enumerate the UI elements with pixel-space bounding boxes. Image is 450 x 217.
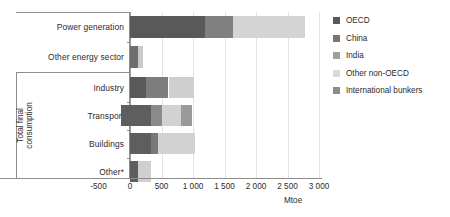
legend-swatch-other-non-oecd [333,70,340,77]
tickmark-0 [127,42,130,43]
bar-segment-other-non-oecd [162,105,181,126]
bar-segment-other-non-oecd [158,133,195,154]
legend-label-india: India [346,51,364,60]
xtick-label-1500: 1 500 [214,182,235,191]
category-label-power-generation: Power generation [0,12,130,42]
gridline-3000 [319,12,320,178]
frame-rule-middle [16,72,130,73]
xtick-label-3000: 3 000 [309,182,330,191]
tickmark-1 [127,72,130,73]
bar-segment-oecd [130,46,138,68]
xtick-label-2000: 2 000 [246,182,267,191]
legend-label-international-bunkers: International bunkers [346,86,422,95]
legend-label-china: China [346,34,367,43]
xtick-label-0: 0 [128,182,133,191]
x-axis-line [0,178,322,179]
bar-segment-other-non-oecd [233,16,306,38]
chart-root: Power generation Other energy sector Ind… [0,0,450,217]
bar-segment-china [146,77,169,98]
bar-segment-oecd [130,77,146,98]
plot-area [130,12,322,178]
bar-segment-china [151,133,158,154]
bar-segment-china [151,105,162,126]
bar-segment-oecd [130,105,151,126]
xtick-label-500: 500 [155,182,169,191]
legend-label-other-non-oecd: Other non-OECD [346,69,409,78]
bar-segment-oecd [130,16,205,38]
bar-segment-oecd [130,133,151,154]
bar-segment-other-non-oecd [169,77,195,98]
legend-item-india[interactable]: India [333,47,450,65]
axis-unit-label: Mtoe [284,196,302,205]
legend-swatch-china [333,35,340,42]
tickmark-2 [127,102,130,103]
xtick-label--500: -500 [90,182,106,191]
category-label-other-energy-sector: Other energy sector [0,42,130,72]
xtick-label-1000: 1 000 [183,182,204,191]
bar-segment-other-non-oecd [138,46,144,68]
legend: OECD China India Other non-OECD Internat… [333,12,450,100]
legend-swatch-international-bunkers [333,87,340,94]
frame-rule-top [16,12,130,13]
group-label-total-final-consumption: Total final consumption [16,93,35,157]
legend-label-oecd: OECD [346,16,370,25]
legend-swatch-india [333,52,340,59]
bar-segment-international-bunkers [181,105,192,126]
tickmark-3 [127,130,130,131]
legend-item-china[interactable]: China [333,30,450,48]
xtick-label-2500: 2 500 [277,182,298,191]
legend-item-international-bunkers[interactable]: International bunkers [333,82,450,100]
tickmark-4 [127,158,130,159]
legend-item-oecd[interactable]: OECD [333,12,450,30]
category-label-other: Other* [0,158,130,186]
bar-segment-international-bunkers-negative [121,105,130,126]
legend-swatch-oecd [333,17,340,24]
bar-segment-china [205,16,233,38]
legend-item-other-non-oecd[interactable]: Other non-OECD [333,65,450,83]
